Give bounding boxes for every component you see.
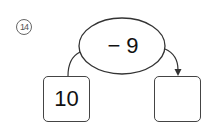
right-arc	[165, 49, 178, 70]
answer-value	[155, 77, 200, 121]
arrow-head-icon	[175, 69, 182, 76]
operation-label: − 9	[80, 24, 166, 68]
start-value: 10	[44, 77, 89, 121]
answer-box[interactable]	[154, 76, 201, 122]
start-box: 10	[43, 76, 90, 122]
left-arc	[68, 52, 80, 76]
